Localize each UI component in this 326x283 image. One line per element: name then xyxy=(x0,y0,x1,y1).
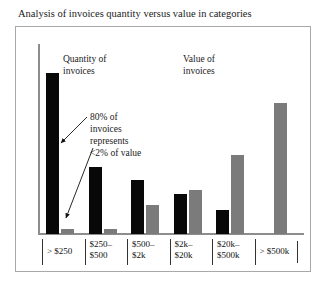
x-axis-tick-labels: > $250$250–$500$500–$2k$2k–$20k$20k–$500… xyxy=(38,237,308,271)
x-tick-label-1-line-0: $250– xyxy=(90,239,128,250)
quantity-bar-3 xyxy=(174,194,187,234)
series-label-value-line2: invoices xyxy=(183,66,215,78)
x-tick-label-5: > $500k xyxy=(255,239,298,265)
x-tick-label-0-line-0: > $250 xyxy=(47,246,85,257)
x-tick-end-marker xyxy=(297,241,298,263)
annotation-text: 80% of invoices represents <2% of value xyxy=(90,111,185,159)
x-tick-label-3: $2k–$20k xyxy=(170,239,213,265)
x-tick-label-4: $20k–$500k xyxy=(212,239,255,265)
series-label-quantity-line2: invoices xyxy=(63,66,107,78)
chart-frame: Quantity of invoices Value of invoices 8… xyxy=(15,26,311,272)
x-tick-label-3-line-0: $2k– xyxy=(175,239,213,250)
x-tick-label-0: > $250 xyxy=(42,239,85,265)
x-tick-label-2: $500–$2k xyxy=(127,239,170,265)
page-title: Analysis of invoices quantity versus val… xyxy=(18,8,252,20)
series-label-quantity: Quantity of invoices xyxy=(63,54,107,77)
value-bar-5 xyxy=(274,103,287,234)
x-tick-label-2-line-1: $2k xyxy=(132,250,170,261)
plot-area: Quantity of invoices Value of invoices 8… xyxy=(16,27,312,273)
x-axis-line xyxy=(38,233,304,235)
x-tick-label-4-line-1: $500k xyxy=(217,250,255,261)
x-tick-label-1: $250–$500 xyxy=(85,239,128,265)
value-bar-1 xyxy=(104,229,117,234)
quantity-bar-0 xyxy=(46,73,59,234)
annotation-line-4: <2% of value xyxy=(90,147,185,159)
x-tick-label-3-line-1: $20k xyxy=(175,250,213,261)
annotation-line-3: represents xyxy=(90,135,185,147)
quantity-bar-2 xyxy=(131,180,144,234)
y-axis-line xyxy=(38,44,40,234)
x-tick-label-2-line-0: $500– xyxy=(132,239,170,250)
value-bar-4 xyxy=(231,155,244,234)
value-bar-0 xyxy=(61,229,74,234)
x-tick-label-5-line-0: > $500k xyxy=(260,246,298,257)
arrow-to-quantity-bar xyxy=(61,117,87,143)
x-tick-label-4-line-0: $20k– xyxy=(217,239,255,250)
x-tick-label-1-line-1: $500 xyxy=(90,250,128,261)
value-bar-2 xyxy=(146,205,159,234)
series-label-value-line1: Value of xyxy=(183,54,215,66)
series-label-value: Value of invoices xyxy=(183,54,215,77)
value-bar-3 xyxy=(189,190,202,234)
annotation-line-1: 80% of xyxy=(90,111,185,123)
annotation-line-2: invoices xyxy=(90,123,185,135)
quantity-bar-1 xyxy=(89,167,102,234)
quantity-bar-4 xyxy=(216,210,229,234)
series-label-quantity-line1: Quantity of xyxy=(63,54,107,66)
